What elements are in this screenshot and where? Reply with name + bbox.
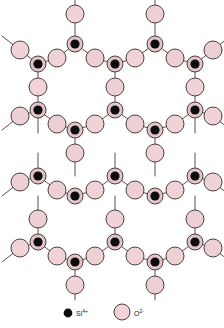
oxygen-atom xyxy=(106,78,124,96)
silicon-atom-core xyxy=(150,125,159,134)
oxygen-atom xyxy=(126,247,144,265)
oxygen-atom xyxy=(86,49,104,67)
silicon-atom-core xyxy=(33,237,42,246)
silicon-atom xyxy=(107,56,123,72)
silicon-atom xyxy=(67,122,83,138)
oxygen-atom xyxy=(146,5,164,23)
silicon-atom xyxy=(147,188,163,204)
silicon-atom xyxy=(30,102,46,118)
silicon-atom xyxy=(67,254,83,270)
oxygen-atom xyxy=(86,181,104,199)
legend-item-silicon: Si4+ xyxy=(64,308,88,317)
oxygen-atom xyxy=(204,41,222,59)
oxygen-atom xyxy=(204,173,222,191)
oxygen-atom xyxy=(204,239,222,257)
oxygen-atom xyxy=(29,78,47,96)
oxygen-atom xyxy=(48,115,66,133)
oxygen-atom xyxy=(126,181,144,199)
oxygen-atom xyxy=(11,107,29,125)
oxygen-atom xyxy=(66,5,84,23)
silicon-atom-core xyxy=(110,105,119,114)
oxygen-atom xyxy=(48,181,66,199)
silica-network-diagram: Si4+O2- xyxy=(0,0,224,328)
silicon-atom-core xyxy=(150,39,159,48)
silicon-dot-icon xyxy=(64,309,73,318)
silica-network-figure: Si4+O2- xyxy=(0,0,224,328)
silicon-atom xyxy=(67,36,83,52)
silicon-atom xyxy=(30,56,46,72)
legend-label-silicon: Si4+ xyxy=(76,308,88,317)
oxygen-atom xyxy=(186,78,204,96)
silicon-atom xyxy=(187,168,203,184)
silicon-atom xyxy=(107,168,123,184)
oxygen-atom xyxy=(166,115,184,133)
oxygen-atom xyxy=(11,41,29,59)
silicon-atom-core xyxy=(190,171,199,180)
oxygen-atom xyxy=(48,247,66,265)
oxygen-atom xyxy=(186,210,204,228)
legend-item-oxygen: O2- xyxy=(114,304,144,320)
oxygen-atom xyxy=(86,247,104,265)
silicon-atom-core xyxy=(150,257,159,266)
silicon-atom-core xyxy=(190,237,199,246)
oxygen-atom xyxy=(166,247,184,265)
silicon-atom xyxy=(147,36,163,52)
silicon-atom xyxy=(187,102,203,118)
legend: Si4+O2- xyxy=(64,304,145,320)
oxygen-atom xyxy=(66,276,84,294)
oxygen-atom xyxy=(66,144,84,162)
silicon-atom-core xyxy=(110,237,119,246)
silicon-atom-core xyxy=(70,125,79,134)
silicon-atom xyxy=(147,122,163,138)
oxygen-atom xyxy=(29,210,47,228)
oxygen-atom xyxy=(126,49,144,67)
silicon-atom-core xyxy=(70,257,79,266)
oxygen-atom xyxy=(146,276,164,294)
silicon-atom xyxy=(30,234,46,250)
oxygen-atom xyxy=(86,115,104,133)
silicon-atom-core xyxy=(190,59,199,68)
oxygen-atom xyxy=(126,115,144,133)
oxygen-circle-icon xyxy=(114,304,130,320)
oxygen-atom xyxy=(48,49,66,67)
silicon-atom-core xyxy=(110,59,119,68)
silicon-atom xyxy=(107,234,123,250)
legend-charge-silicon: 4+ xyxy=(82,308,88,314)
silicon-atom xyxy=(30,168,46,184)
silicon-atom xyxy=(147,254,163,270)
silicon-atom-core xyxy=(190,105,199,114)
silicon-atom-core xyxy=(33,171,42,180)
silicon-atom-core xyxy=(70,39,79,48)
oxygen-atom xyxy=(106,210,124,228)
silicon-atom-core xyxy=(110,171,119,180)
silicon-atom xyxy=(187,56,203,72)
oxygen-atom xyxy=(146,144,164,162)
oxygen-atom xyxy=(166,181,184,199)
legend-charge-oxygen: 2- xyxy=(139,308,144,314)
oxygen-atom xyxy=(11,239,29,257)
silicon-atom xyxy=(67,188,83,204)
oxygen-atom xyxy=(204,107,222,125)
oxygen-atom-layer xyxy=(11,5,222,294)
silicon-atom-core xyxy=(70,191,79,200)
silicon-atom-layer xyxy=(30,36,203,270)
silicon-atom-core xyxy=(33,105,42,114)
silicon-atom xyxy=(107,102,123,118)
silicon-atom xyxy=(187,234,203,250)
legend-label-oxygen: O2- xyxy=(134,308,144,317)
silicon-atom-core xyxy=(33,59,42,68)
oxygen-atom xyxy=(166,49,184,67)
silicon-atom-core xyxy=(150,191,159,200)
oxygen-atom xyxy=(11,173,29,191)
bond-layer xyxy=(2,0,224,300)
